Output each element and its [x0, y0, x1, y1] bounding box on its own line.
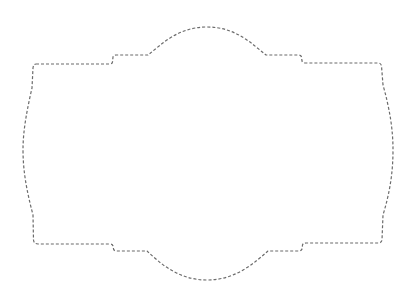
label-frame-shape — [0, 0, 414, 302]
dashed-frame-outline — [23, 27, 393, 280]
canvas — [0, 0, 414, 302]
